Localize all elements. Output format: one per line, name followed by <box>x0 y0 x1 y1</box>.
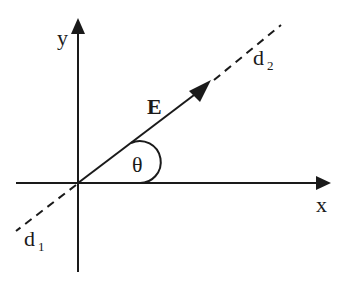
line-d1 <box>16 185 76 231</box>
y-axis-label: y <box>57 25 68 50</box>
y-axis <box>71 18 85 272</box>
vector-e-label: E <box>147 94 162 119</box>
d1-label-sub: 1 <box>38 239 45 254</box>
x-axis-label: x <box>316 192 327 217</box>
d2-label: d 2 <box>253 45 274 73</box>
y-axis-arrow-icon <box>71 18 85 34</box>
d2-label-main: d <box>253 45 264 70</box>
x-axis-arrow-icon <box>316 176 331 190</box>
d1-label-main: d <box>24 226 35 251</box>
angle-theta-label: θ <box>132 152 143 177</box>
x-axis <box>16 176 331 190</box>
vector-e-arrow-icon <box>189 80 211 102</box>
d1-label: d 1 <box>24 226 45 254</box>
d2-label-sub: 2 <box>267 58 274 73</box>
diagram-canvas: y x E θ d 2 d 1 <box>0 0 345 284</box>
vector-e <box>78 80 211 183</box>
